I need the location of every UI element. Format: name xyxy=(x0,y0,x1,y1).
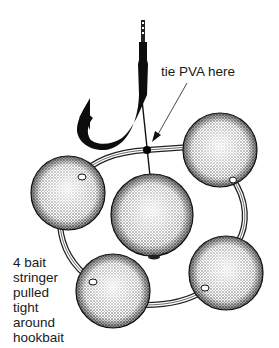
pointer-arrow xyxy=(152,83,187,142)
hair-line xyxy=(142,100,150,176)
hook-icon xyxy=(77,20,148,150)
caption-line: around xyxy=(13,315,64,330)
hookbait-ball xyxy=(111,174,193,260)
rig-diagram: tie PVA here 4 bait stringer pulled tigh… xyxy=(0,0,279,348)
bait-bottom-left xyxy=(76,254,150,328)
caption-line: tight xyxy=(13,300,64,315)
stringer-caption: 4 bait stringer pulled tight around hook… xyxy=(13,255,64,345)
bait-top-right xyxy=(183,113,257,187)
tie-pva-label: tie PVA here xyxy=(161,64,235,79)
caption-line: pulled xyxy=(13,285,64,300)
caption-line: hookbait xyxy=(13,330,64,345)
caption-line: 4 bait xyxy=(13,255,64,270)
pva-knot xyxy=(143,146,151,154)
bait-left xyxy=(31,156,105,230)
caption-line: stringer xyxy=(13,270,64,285)
bait-bottom-right xyxy=(189,236,263,310)
